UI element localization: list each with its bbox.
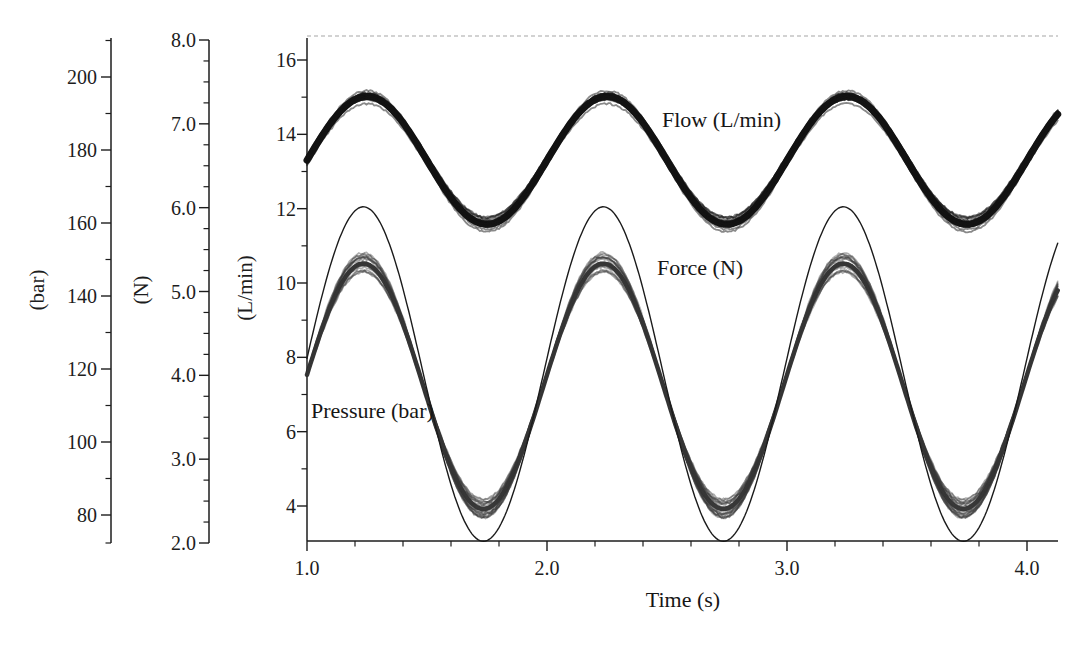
time-axis-tick-label: 2.0 bbox=[535, 557, 560, 579]
flow-axis-tick-label: 16 bbox=[276, 49, 296, 71]
chart-canvas: 200180160140120100808.07.06.05.04.03.02.… bbox=[0, 0, 1084, 645]
pressure-axis-tick-label: 140 bbox=[67, 285, 97, 307]
pressure-curve-noise bbox=[307, 256, 1058, 518]
chart-figure: 200180160140120100808.07.06.05.04.03.02.… bbox=[0, 0, 1084, 645]
time-axis-tick-label: 4.0 bbox=[1015, 557, 1040, 579]
flow-axis-tick-label: 12 bbox=[276, 198, 296, 220]
force-axis-tick-label: 5.0 bbox=[171, 281, 196, 303]
force-axis-unit-label: (N) bbox=[129, 275, 153, 304]
time-axis-tick-label: 1.0 bbox=[295, 557, 320, 579]
curves-layer bbox=[307, 90, 1058, 541]
pressure-curve-noise bbox=[307, 264, 1058, 505]
force-curve-label: Force (N) bbox=[657, 255, 743, 280]
pressure-axis-tick-label: 180 bbox=[67, 139, 97, 161]
force-axis-tick-label: 4.0 bbox=[171, 364, 196, 386]
pressure-curve-noise bbox=[307, 254, 1058, 519]
pressure-curve-noise bbox=[307, 270, 1058, 500]
time-axis-tick-label: 3.0 bbox=[775, 557, 800, 579]
pressure-axis-tick-label: 80 bbox=[77, 504, 97, 526]
pressure-curve-noise bbox=[307, 265, 1058, 503]
flow-axis-tick-label: 4 bbox=[286, 495, 296, 517]
pressure-curve-noise bbox=[307, 262, 1058, 512]
pressure-curve-noise bbox=[307, 256, 1058, 515]
flow-curve-label: Flow (L/min) bbox=[662, 107, 781, 132]
pressure-curve-noise bbox=[307, 257, 1058, 515]
pressure-axis-tick-label: 200 bbox=[67, 66, 97, 88]
flow-axis-tick-label: 6 bbox=[286, 421, 296, 443]
pressure-curve-noise bbox=[307, 262, 1058, 507]
axes-layer: 200180160140120100808.07.06.05.04.03.02.… bbox=[67, 29, 1058, 579]
force-axis-tick-label: 7.0 bbox=[171, 113, 196, 135]
pressure-axis-tick-label: 160 bbox=[67, 212, 97, 234]
pressure-curve-label: Pressure (bar) bbox=[311, 398, 434, 423]
pressure-axis-tick-label: 120 bbox=[67, 358, 97, 380]
pressure-curve-noise bbox=[307, 261, 1058, 512]
flow-axis-unit-label: (L/min) bbox=[233, 255, 257, 320]
pressure-axis-unit-label: (bar) bbox=[25, 270, 49, 311]
flow-axis-tick-label: 8 bbox=[286, 346, 296, 368]
flow-axis-tick-label: 10 bbox=[276, 272, 296, 294]
flow-axis-tick-label: 14 bbox=[276, 123, 296, 145]
pressure-curve-noise bbox=[307, 257, 1058, 515]
force-axis-tick-label: 8.0 bbox=[171, 29, 196, 51]
pressure-curve-noise bbox=[307, 259, 1058, 514]
pressure-curve-noise bbox=[307, 266, 1058, 502]
pressure-curve-noise bbox=[307, 271, 1058, 504]
pressure-curve-noise bbox=[307, 252, 1058, 518]
pressure-curve-noise bbox=[307, 270, 1058, 500]
force-axis-tick-label: 6.0 bbox=[171, 197, 196, 219]
pressure-curve-noise bbox=[307, 263, 1058, 514]
pressure-curve bbox=[307, 264, 1058, 509]
pressure-curve-noise bbox=[307, 254, 1058, 519]
pressure-curve-noise bbox=[307, 256, 1058, 517]
pressure-curve-noise bbox=[307, 265, 1058, 504]
force-axis-tick-label: 3.0 bbox=[171, 448, 196, 470]
pressure-curve-noise bbox=[307, 262, 1058, 507]
force-axis-tick-label: 2.0 bbox=[171, 532, 196, 554]
x-axis-title: Time (s) bbox=[646, 587, 720, 612]
pressure-curve-noise bbox=[307, 270, 1058, 503]
pressure-axis-tick-label: 100 bbox=[67, 431, 97, 453]
